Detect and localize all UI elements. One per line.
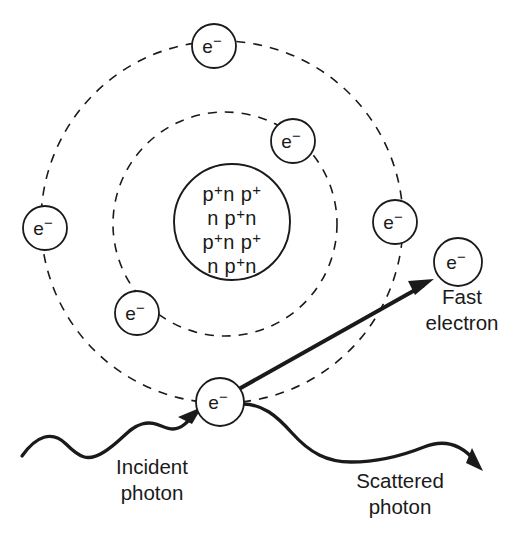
incident-photon-wave xyxy=(22,407,202,458)
electron-outer-top: e− xyxy=(192,24,236,68)
compton-scattering-canvas: p+n p+ n p+n p+n p+ n p+n e− e− xyxy=(0,0,516,534)
nucleon-row-2: n p+n xyxy=(207,205,257,229)
fast-electron-label-line1: Fast xyxy=(442,285,482,308)
caption-scattered-photon: Scattered photon xyxy=(356,469,444,518)
electron-fast-ejected: e− xyxy=(434,238,482,286)
caption-fast-electron: Fast electron xyxy=(426,285,499,334)
scattered-photon-label-line2: photon xyxy=(369,495,432,518)
scattered-photon-arrow-head xyxy=(466,448,483,471)
incident-photon-path xyxy=(22,411,197,458)
incident-photon-label-line2: photon xyxy=(121,481,184,504)
electron-outer-right: e− xyxy=(373,200,417,244)
fast-electron-vector xyxy=(230,279,434,394)
electron-inner-upper-right: e− xyxy=(271,119,315,163)
scattered-photon-wave xyxy=(243,404,483,471)
atomic-nucleus: p+n p+ n p+n p+n p+ n p+n xyxy=(174,164,290,280)
incident-photon-label-line1: Incident xyxy=(116,455,188,478)
fast-electron-label-line2: electron xyxy=(426,311,499,334)
scattered-photon-path xyxy=(243,404,475,462)
nucleon-row-4: n p+n xyxy=(207,253,257,277)
fast-electron-arrow-shaft xyxy=(230,285,424,394)
caption-incident-photon: Incident photon xyxy=(116,455,188,504)
scattered-photon-label-line1: Scattered xyxy=(356,469,444,492)
electron-inner-lower-left: e− xyxy=(115,291,159,335)
compton-scattering-diagram: p+n p+ n p+n p+n p+ n p+n e− e− xyxy=(0,0,516,534)
electron-interaction: e− xyxy=(196,378,244,426)
electron-outer-left: e− xyxy=(23,206,67,250)
